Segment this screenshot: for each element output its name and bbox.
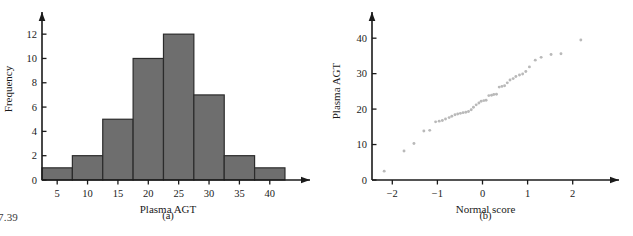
scatter-point xyxy=(509,79,512,82)
scatter-point xyxy=(524,70,527,73)
x-ticks-b: −2−1012 xyxy=(387,180,576,199)
scatter-point xyxy=(500,85,503,88)
histogram-bar xyxy=(194,95,224,180)
y-tick-label: 2 xyxy=(32,150,37,161)
panel-a-caption: (a) xyxy=(162,210,174,222)
y-tick-label: 0 xyxy=(362,175,367,186)
qq-axes xyxy=(369,12,619,183)
x-tick-label: 30 xyxy=(204,188,215,199)
scatter-point xyxy=(492,93,495,96)
scatter-point xyxy=(444,118,447,121)
y-tick-label: 12 xyxy=(27,29,38,40)
histogram-bar xyxy=(103,119,133,180)
scatter-point xyxy=(441,119,444,122)
scatter-point xyxy=(534,59,537,62)
qq-points xyxy=(383,39,583,173)
x-axis-a-arrowhead xyxy=(301,177,310,184)
scatter-point xyxy=(434,120,437,123)
x-tick-label: 2 xyxy=(570,188,575,199)
y-tick-label: 40 xyxy=(357,33,368,44)
scatter-point xyxy=(450,115,453,118)
x-tick-label: 20 xyxy=(143,188,154,199)
scatter-point xyxy=(560,52,563,55)
qq-plot-area: −2−1012010203040Normal scorePlasma AGT(b… xyxy=(330,12,619,222)
scatter-point xyxy=(475,103,478,106)
scatter-point xyxy=(456,113,459,116)
scatter-point xyxy=(521,73,524,76)
scatter-point xyxy=(459,112,462,115)
scatter-point xyxy=(448,116,451,119)
scatter-point xyxy=(383,170,386,173)
y-tick-label: 6 xyxy=(32,102,37,113)
y-tick-label: 4 xyxy=(32,126,38,137)
scatter-point xyxy=(579,39,582,42)
scatter-point xyxy=(528,65,531,68)
scatter-point xyxy=(514,75,517,78)
scatter-point xyxy=(485,99,488,102)
y-axis-title-b: Plasma AGT xyxy=(330,62,342,119)
scatter-point xyxy=(470,108,473,111)
y-axis-title-a: Frequency xyxy=(2,65,14,112)
x-axis-b-arrowhead xyxy=(610,177,619,184)
x-tick-label: −2 xyxy=(387,188,398,199)
scatter-point xyxy=(472,106,475,109)
x-tick-label: 5 xyxy=(55,188,60,199)
scatter-point xyxy=(428,129,431,132)
scatter-point xyxy=(477,102,480,105)
scatter-point xyxy=(438,120,441,123)
scatter-point xyxy=(403,149,406,152)
y-axis-b-arrowhead xyxy=(369,12,376,21)
scatter-point xyxy=(503,84,506,87)
y-tick-label: 10 xyxy=(27,53,38,64)
histogram-bar xyxy=(133,58,163,180)
scatter-point xyxy=(412,142,415,145)
scatter-point xyxy=(498,86,501,89)
y-axis-a-arrowhead xyxy=(39,12,46,21)
x-ticks-a: 510152025303540 xyxy=(55,180,275,199)
x-tick-label: −1 xyxy=(432,188,443,199)
y-tick-label: 30 xyxy=(357,68,368,79)
y-tick-label: 0 xyxy=(32,175,37,186)
histogram-bar xyxy=(72,156,102,180)
scatter-point xyxy=(454,113,457,116)
scatter-point xyxy=(518,74,521,77)
x-tick-label: 25 xyxy=(173,188,184,199)
scatter-point xyxy=(422,130,425,133)
y-tick-label: 20 xyxy=(357,104,368,115)
y-tick-label: 10 xyxy=(357,139,368,150)
scatter-point xyxy=(506,81,509,84)
panel-b-caption: (b) xyxy=(479,210,492,222)
histogram-bar xyxy=(224,156,254,180)
scatter-point xyxy=(512,77,515,80)
x-tick-label: 35 xyxy=(234,188,245,199)
x-tick-label: 10 xyxy=(82,188,93,199)
histogram-bars xyxy=(42,34,285,180)
scatter-point xyxy=(467,110,470,113)
y-ticks-b: 010203040 xyxy=(357,33,377,186)
x-tick-label: 15 xyxy=(113,188,124,199)
scatter-point xyxy=(464,111,467,114)
scatter-point xyxy=(550,53,553,56)
histogram-bar xyxy=(42,168,72,180)
histogram-bar xyxy=(255,168,285,180)
scatter-point xyxy=(462,111,465,114)
y-ticks-a: 024681012 xyxy=(27,29,47,186)
qqplot-panel-b: −2−1012010203040Normal scorePlasma AGT(b… xyxy=(320,0,633,236)
scatter-point xyxy=(540,56,543,59)
histogram-plot-area: 510152025303540024681012Plasma AGTFreque… xyxy=(2,12,310,222)
corner-number: 7.39 xyxy=(0,211,18,223)
scatter-point xyxy=(495,93,498,96)
scatter-point xyxy=(487,94,490,97)
y-tick-label: 8 xyxy=(32,77,37,88)
figure-container: 510152025303540024681012Plasma AGTFreque… xyxy=(0,0,633,236)
histogram-bar xyxy=(163,34,193,180)
scatter-point xyxy=(480,100,483,103)
x-tick-label: 40 xyxy=(265,188,276,199)
x-tick-label: 1 xyxy=(525,188,530,199)
x-tick-label: 0 xyxy=(480,188,485,199)
histogram-panel-a: 510152025303540024681012Plasma AGTFreque… xyxy=(0,0,320,236)
